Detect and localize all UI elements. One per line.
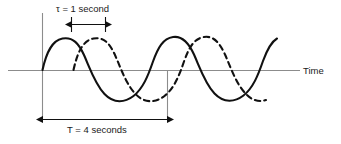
- tau-annotation-label: τ = 1 second: [56, 4, 109, 14]
- waveform-canvas: [0, 0, 341, 144]
- period-annotation-label: T = 4 seconds: [67, 125, 127, 135]
- reference-wave-curve: [43, 37, 278, 101]
- time-axis-label: Time: [303, 66, 324, 76]
- waveform-figure: τ = 1 second T = 4 seconds Time: [0, 0, 341, 144]
